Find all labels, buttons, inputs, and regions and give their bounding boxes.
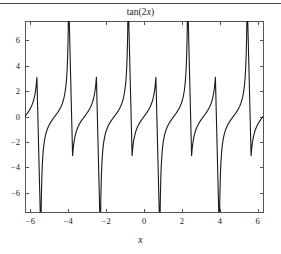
y-tick-label: −6 (0, 188, 20, 198)
axes-box (26, 22, 264, 213)
y-tick-label: 6 (0, 35, 20, 45)
y-tick-label: 0 (0, 112, 20, 122)
figure-tan2x: tan(2x) −6−4−20246 −6−4−20246 x (0, 0, 281, 254)
header-rule (0, 3, 281, 4)
chart-title: tan(2x) (0, 7, 281, 17)
x-tick-label: 2 (180, 216, 184, 226)
y-tick-label: 4 (0, 61, 20, 71)
y-tick-label: −4 (0, 162, 20, 172)
y-tick-label: −2 (0, 137, 20, 147)
y-tick-label: 2 (0, 86, 20, 96)
plot-canvas (0, 0, 281, 254)
x-tick-label: −6 (26, 216, 35, 226)
x-tick-label: −4 (64, 216, 73, 226)
x-tick-label: 0 (142, 216, 146, 226)
x-axis-label: x (0, 234, 281, 245)
x-tick-label: −2 (102, 216, 111, 226)
axes-frame (26, 22, 264, 213)
x-tick-label: 4 (218, 216, 222, 226)
chart-title-suffix: ) (151, 7, 154, 17)
x-tick-label: 6 (256, 216, 260, 226)
chart-title-prefix: tan(2 (127, 7, 147, 17)
